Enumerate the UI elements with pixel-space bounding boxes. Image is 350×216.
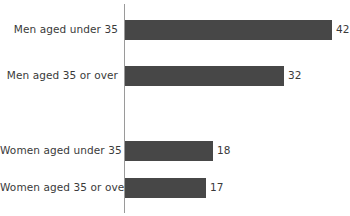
- category-label: Men aged 35 or over: [0, 69, 118, 81]
- bar: [125, 141, 213, 161]
- table-row: Men aged under 35 42: [0, 20, 350, 40]
- bar: [125, 20, 332, 40]
- bar-value-label: 18: [217, 144, 230, 156]
- bar: [125, 66, 284, 86]
- category-label: Women aged under 35: [0, 144, 118, 156]
- category-label: Men aged under 35: [0, 23, 118, 35]
- plot-area: Men aged under 35 42 Men aged 35 or over…: [0, 0, 350, 216]
- table-row: Women aged under 35 18: [0, 141, 350, 161]
- bar-value-label: 32: [288, 69, 301, 81]
- bar-value-label: 17: [210, 181, 223, 193]
- bar-value-label: 42: [336, 23, 349, 35]
- table-row: Women aged 35 or over 17: [0, 178, 350, 198]
- category-label: Women aged 35 or over: [0, 181, 118, 193]
- bar: [125, 178, 206, 198]
- bar-chart: Men aged under 35 42 Men aged 35 or over…: [0, 0, 350, 216]
- table-row: Men aged 35 or over 32: [0, 66, 350, 86]
